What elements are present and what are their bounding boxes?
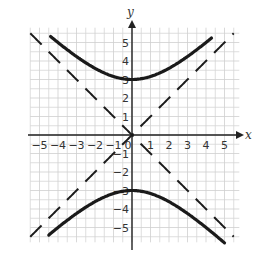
x-tick-label: 3 <box>184 139 191 152</box>
y-tick-label: −2 <box>113 166 129 179</box>
y-tick-label: 5 <box>122 37 129 50</box>
y-tick-label: −4 <box>113 203 129 216</box>
x-tick-label: −5 <box>31 139 47 152</box>
y-tick-label: −1 <box>113 148 129 161</box>
y-tick-label: 2 <box>122 92 129 105</box>
y-tick-label: −5 <box>113 222 129 235</box>
x-tick-label: 2 <box>166 139 173 152</box>
y-tick-label: 4 <box>122 55 129 68</box>
x-axis-arrow-icon <box>236 131 244 139</box>
y-axis-label: y <box>126 5 134 19</box>
x-tick-label: −2 <box>87 139 103 152</box>
x-axis-label: x <box>245 128 252 142</box>
axes <box>28 20 244 250</box>
x-tick-label: −3 <box>68 139 84 152</box>
y-tick-label: 1 <box>122 111 129 124</box>
y-axis-arrow-icon <box>128 20 136 28</box>
x-tick-label: 4 <box>203 139 210 152</box>
x-tick-label: 5 <box>221 139 228 152</box>
hyperbola-branch <box>49 191 225 243</box>
x-tick-label: −4 <box>50 139 66 152</box>
hyperbola-chart: −5−4−3−2−101234554321−1−2−3−4−5 x y <box>0 0 262 260</box>
